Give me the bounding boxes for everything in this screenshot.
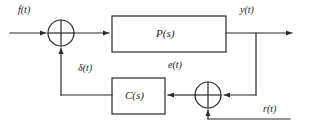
signal-label-reference: r(t) <box>263 104 276 114</box>
signal-label-delta: δ(t) <box>78 63 92 73</box>
block-diagram-canvas: P(s) C(s) f(t) y(t) δ(t) e(t) r(t) <box>0 0 311 130</box>
plant-block-label: P(s) <box>156 28 174 39</box>
controller-block-label: C(s) <box>125 90 144 101</box>
signal-label-input: f(t) <box>18 5 30 15</box>
signal-label-output: y(t) <box>240 5 254 15</box>
signal-label-error: e(t) <box>168 60 182 70</box>
